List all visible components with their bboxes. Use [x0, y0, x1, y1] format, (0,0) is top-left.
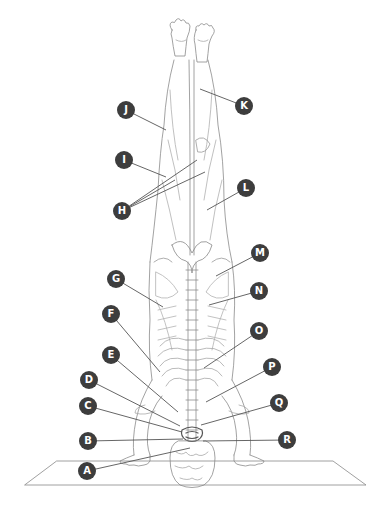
- feet: [170, 19, 214, 62]
- leader-line-a: [87, 448, 190, 471]
- leader-line-b: [88, 439, 183, 441]
- neck-vertebrae: [182, 427, 203, 442]
- callout-l: L: [237, 179, 255, 197]
- callout-g: G: [107, 270, 125, 288]
- callout-f: F: [102, 305, 120, 323]
- callout-h: H: [113, 202, 131, 220]
- callout-a: A: [78, 462, 96, 480]
- back-muscles: [156, 272, 228, 350]
- leader-line-q: [201, 403, 279, 425]
- callout-e: E: [102, 346, 120, 364]
- callout-b: B: [79, 432, 97, 450]
- arms: [133, 380, 250, 455]
- callout-o: O: [250, 322, 268, 340]
- callout-r: R: [278, 431, 296, 449]
- pelvis: [149, 241, 235, 380]
- headstand-anatomy-diagram: ABCDEFGHIJKLMNOPQR: [0, 0, 369, 505]
- leader-line-r: [203, 440, 287, 441]
- leader-line-p: [206, 367, 272, 402]
- yoga-mat: [25, 461, 366, 485]
- callout-d: D: [80, 371, 98, 389]
- callout-j: J: [117, 101, 135, 119]
- callout-c: C: [79, 397, 97, 415]
- hands: [120, 455, 264, 466]
- callout-m: M: [251, 244, 269, 262]
- callout-k: K: [235, 97, 253, 115]
- callout-p: P: [263, 358, 281, 376]
- leader-line-f: [111, 314, 160, 372]
- callout-i: I: [115, 151, 133, 169]
- figure-illustration: [0, 0, 369, 505]
- legs: [150, 60, 232, 262]
- spine: [186, 262, 198, 440]
- callout-q: Q: [270, 394, 288, 412]
- callout-n: N: [250, 282, 268, 300]
- leader-line-h: [122, 172, 205, 211]
- ribs: [158, 338, 226, 386]
- head: [170, 441, 215, 488]
